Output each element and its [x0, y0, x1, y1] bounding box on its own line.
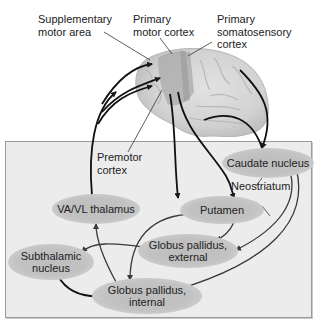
label-line: somatosensory	[217, 26, 292, 39]
node-label: Subthalamic	[21, 250, 82, 263]
node-globus-pallidus-external: Globus pallidus, external	[138, 234, 238, 268]
label-line: Neostriatum	[231, 180, 290, 193]
node-subthalamic-nucleus: Subthalamic nucleus	[8, 244, 94, 280]
node-label: Globus pallidus,	[149, 239, 227, 252]
node-va-vl-thalamus: VA/VL thalamus	[52, 194, 140, 224]
label-line: cortex	[97, 164, 142, 177]
label-line: motor cortex	[133, 26, 194, 39]
node-label: external	[149, 251, 227, 264]
label-premotor-cortex: Premotor cortex	[97, 151, 142, 176]
label-supplementary-motor-area: Supplementary motor area	[38, 13, 112, 38]
label-line: motor area	[38, 26, 112, 39]
node-label: VA/VL thalamus	[57, 203, 135, 216]
node-label: Caudate nucleus	[227, 157, 310, 170]
node-caudate-nucleus: Caudate nucleus	[222, 148, 314, 178]
label-line: Primary	[133, 13, 194, 26]
node-label: Globus pallidus,	[108, 284, 186, 297]
node-putamen: Putamen	[180, 196, 264, 224]
label-line: Supplementary	[38, 13, 112, 26]
label-line: Primary	[217, 13, 292, 26]
label-line: Premotor	[97, 151, 142, 164]
node-label: internal	[108, 296, 186, 309]
node-label: nucleus	[21, 262, 82, 275]
label-primary-somatosensory-cortex: Primary somatosensory cortex	[217, 13, 292, 51]
label-line: cortex	[217, 38, 292, 51]
label-neostriatum: Neostriatum	[231, 180, 290, 193]
label-primary-motor-cortex: Primary motor cortex	[133, 13, 194, 38]
node-label: Putamen	[200, 204, 244, 217]
node-globus-pallidus-internal: Globus pallidus, internal	[92, 278, 202, 314]
